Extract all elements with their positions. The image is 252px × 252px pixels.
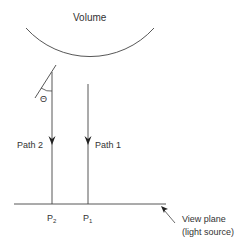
theta-label: Θ xyxy=(40,94,47,104)
angle-arc xyxy=(41,88,52,91)
path-2-label: Path 2 xyxy=(17,140,43,150)
path-1-label: Path 1 xyxy=(95,140,121,150)
p2-label: P2 xyxy=(47,213,57,224)
volume-boundary-arc xyxy=(26,28,154,57)
volume-label: Volume xyxy=(73,12,107,23)
p2-subscript: 2 xyxy=(53,218,57,224)
p1-subscript: 1 xyxy=(89,218,93,224)
view-plane-label: View plane xyxy=(182,214,226,224)
volume-rendering-diagram: Volume Θ Path 2 Path 1 P2 P1 View plane … xyxy=(0,0,252,252)
p1-label: P1 xyxy=(83,213,93,224)
view-plane-pointer-arrowhead-icon xyxy=(161,206,168,213)
light-source-label: (light source) xyxy=(182,227,234,237)
view-plane-pointer-line xyxy=(164,210,175,223)
